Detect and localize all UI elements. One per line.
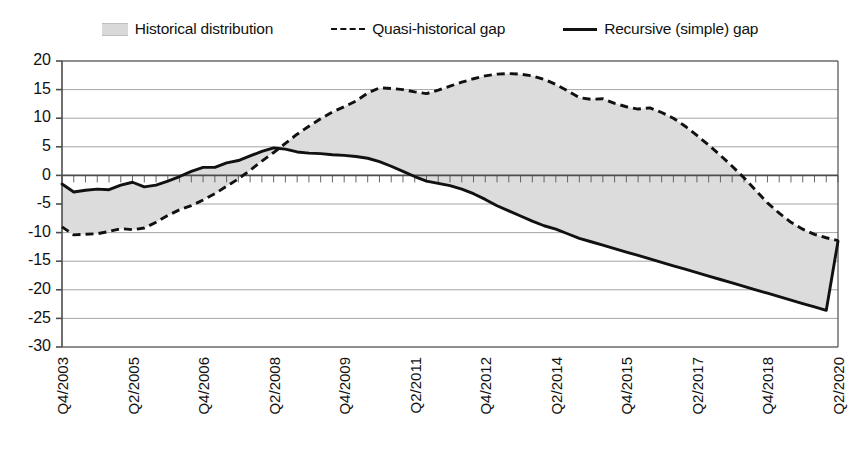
x-axis-tick-label: Q4/2018 — [759, 357, 776, 415]
x-axis-tick-label: Q4/2012 — [477, 357, 494, 415]
y-axis-tick-label: -20 — [28, 280, 51, 297]
plot-area: 20151050-5-10-15-20-25-30 Q4/2003Q2/2005… — [0, 0, 860, 462]
y-axis-tick-label: -10 — [28, 223, 51, 240]
y-axis-tick-label: 5 — [42, 137, 51, 154]
y-axis-tick-label: 15 — [33, 80, 51, 97]
x-axis-tick-label: Q4/2009 — [336, 357, 353, 415]
x-axis-tick-label: Q2/2011 — [407, 357, 424, 413]
y-axis-tick-label: -5 — [37, 194, 51, 211]
x-axis-labels: Q4/2003Q2/2005Q4/2006Q2/2008Q4/2009Q2/20… — [54, 357, 847, 415]
y-axis-tick-label: -30 — [28, 337, 51, 354]
x-axis-tick-label: Q2/2020 — [830, 357, 847, 415]
chart-figure: Historical distribution Quasi-historical… — [0, 0, 860, 462]
x-axis-tick-label: Q4/2006 — [195, 357, 212, 415]
x-axis-tick-label: Q4/2015 — [618, 357, 635, 415]
x-axis-tick-label: Q2/2008 — [266, 357, 283, 415]
historical-distribution-band — [62, 74, 838, 311]
x-axis-tick-label: Q2/2014 — [548, 357, 565, 415]
x-axis-tick-label: Q2/2005 — [125, 357, 142, 415]
x-axis-tick-label: Q4/2003 — [54, 357, 71, 415]
x-axis-tick-label: Q2/2017 — [689, 357, 706, 415]
y-axis-tick-label: 0 — [42, 166, 51, 183]
y-axis-tick-label: -15 — [28, 251, 51, 268]
y-axis-tick-label: -25 — [28, 309, 51, 326]
y-axis-tick-label: 20 — [33, 51, 51, 68]
chart-canvas: 20151050-5-10-15-20-25-30 Q4/2003Q2/2005… — [0, 0, 860, 462]
y-axis-labels: 20151050-5-10-15-20-25-30 — [28, 51, 51, 354]
band-area — [62, 74, 838, 311]
y-axis-tick-label: 10 — [33, 108, 51, 125]
